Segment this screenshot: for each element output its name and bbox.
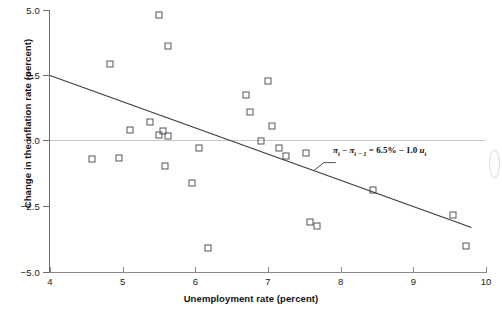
data-point-marker	[246, 108, 253, 115]
data-point-marker	[275, 145, 282, 152]
y-axis-tick	[43, 75, 50, 76]
data-point-marker	[116, 154, 123, 161]
x-axis-tick	[486, 267, 487, 273]
y-tick-label: 0.0	[6, 135, 40, 146]
y-axis-tick	[43, 206, 50, 207]
data-point-marker	[265, 77, 272, 84]
y-axis-tick-labels: 5.0 2.5 0.0 −2.5 −5.0	[0, 0, 40, 317]
u-subscript-t: t	[425, 150, 427, 157]
data-point-marker	[164, 43, 171, 50]
data-point-marker	[164, 133, 171, 140]
regression-line-layer	[0, 0, 502, 317]
pi-subscript-t: t	[338, 150, 340, 157]
y-tick-label: 2.5	[6, 70, 40, 81]
data-point-marker	[450, 211, 457, 218]
x-axis-title: Unemployment rate (percent)	[0, 293, 502, 304]
data-point-marker	[307, 219, 314, 226]
data-point-marker	[302, 149, 309, 156]
y-tick-label: −2.5	[6, 201, 40, 212]
pi-subscript-t-minus-1: t − 1	[354, 150, 366, 157]
equation-coefficient: 1.0	[406, 145, 417, 155]
data-point-marker	[195, 144, 202, 151]
y-axis-line	[49, 10, 50, 272]
minus-operator-1: −	[342, 145, 347, 155]
x-axis-tick	[123, 267, 124, 273]
x-tick-label: 5	[120, 276, 125, 287]
zero-reference-line	[50, 140, 486, 141]
data-point-marker	[107, 61, 114, 68]
data-point-marker	[147, 119, 154, 126]
minus-operator-2: −	[399, 145, 404, 155]
y-axis-tick	[43, 272, 50, 273]
x-tick-label: 9	[411, 276, 416, 287]
data-point-marker	[243, 92, 250, 99]
data-point-marker	[89, 156, 96, 163]
phillips-curve-scatter-chart: Change in the inflation rate (percent) 5…	[0, 0, 502, 317]
page-edge-artifact	[489, 150, 500, 178]
x-tick-label: 8	[338, 276, 343, 287]
x-axis-tick	[413, 267, 414, 273]
data-point-marker	[370, 187, 377, 194]
equation-constant: 6.5%	[376, 145, 396, 155]
x-axis-tick	[50, 267, 51, 273]
x-axis-tick	[195, 267, 196, 273]
data-point-marker	[205, 245, 212, 252]
x-axis-tick	[341, 267, 342, 273]
data-point-marker	[161, 162, 168, 169]
data-point-marker	[188, 179, 195, 186]
y-tick-label: 5.0	[6, 5, 40, 16]
x-tick-label: 7	[265, 276, 270, 287]
data-point-marker	[314, 223, 321, 230]
x-tick-label: 6	[193, 276, 198, 287]
y-axis-tick	[43, 140, 50, 141]
x-tick-label: 10	[481, 276, 492, 287]
y-tick-label: −5.0	[6, 267, 40, 278]
data-point-marker	[156, 11, 163, 18]
data-point-marker	[268, 122, 275, 129]
data-point-marker	[283, 153, 290, 160]
x-axis-tick	[268, 267, 269, 273]
regression-equation-label: πt − πt − 1 = 6.5% − 1.0 ut	[333, 145, 426, 157]
equals-operator: =	[369, 145, 374, 155]
y-axis-tick	[43, 10, 50, 11]
data-point-marker	[257, 138, 264, 145]
x-tick-label: 4	[47, 276, 52, 287]
data-point-marker	[462, 243, 469, 250]
data-point-marker	[126, 126, 133, 133]
